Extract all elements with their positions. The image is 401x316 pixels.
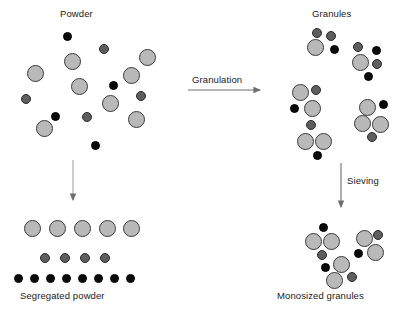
monosized-cluster-3 <box>0 0 401 316</box>
monosized-particle-large <box>333 256 350 273</box>
granulation-label: Granulation <box>192 74 242 85</box>
monosized-particle-large <box>326 272 343 289</box>
monosized-particle-medium <box>347 272 357 282</box>
monosized-granules-field <box>0 0 401 316</box>
monosized-granules-label: Monosized granules <box>277 290 364 301</box>
segregated-powder-label: Segregated powder <box>20 290 105 301</box>
granulation-process-diagram: Powder Granules Granulation Sieving Segr… <box>0 0 401 316</box>
sieving-label: Sieving <box>347 175 379 186</box>
monosized-particle-small <box>321 263 330 272</box>
